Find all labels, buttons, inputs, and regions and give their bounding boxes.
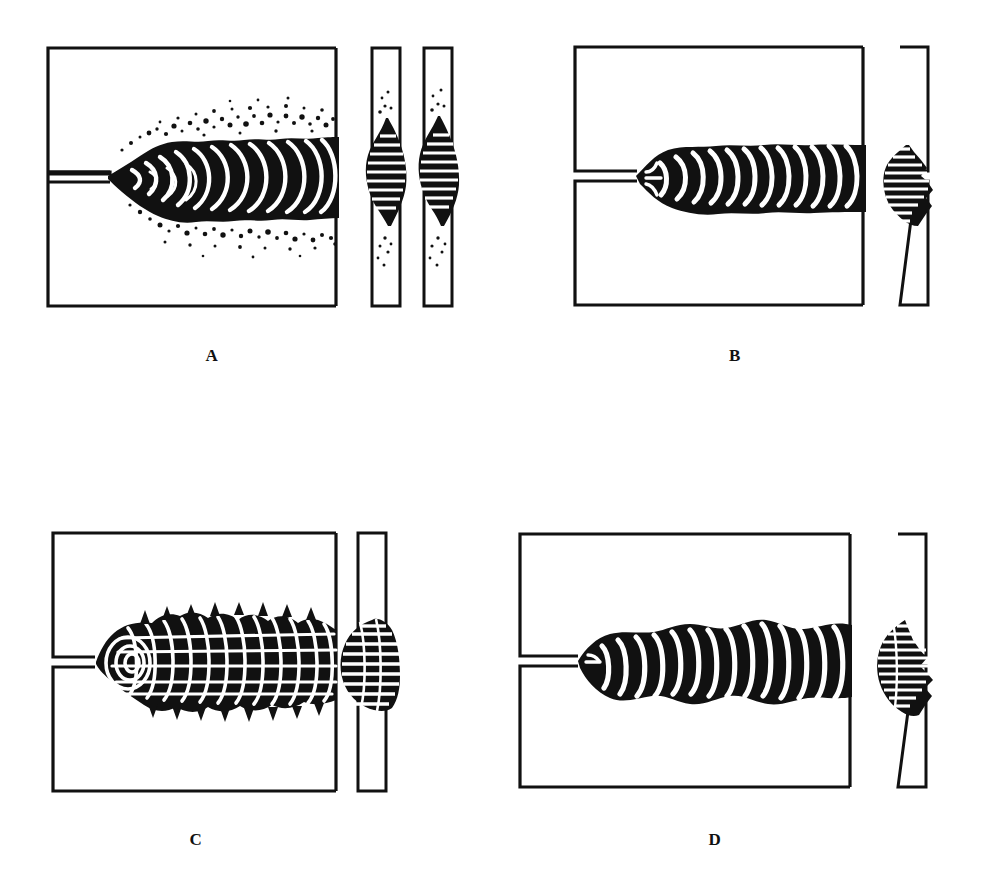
weld-crosshatch-c [128, 617, 332, 704]
figure-root: A [0, 0, 991, 884]
weld-root-fan-b [646, 163, 661, 195]
plate-outline-b [575, 47, 863, 305]
panel-label-c: C [176, 830, 216, 850]
section-strip-d [898, 534, 926, 787]
panel-label-d: D [695, 830, 735, 850]
section-nugget-b [883, 145, 933, 226]
section-strip-c [358, 533, 386, 791]
section-nugget-c [341, 619, 402, 711]
weld-ripples-b [660, 146, 857, 206]
weld-spikes-c [140, 602, 324, 722]
plate-outline-c [53, 533, 336, 791]
section-strip-b [900, 47, 928, 305]
plate-outline-d [520, 534, 850, 787]
panel-a: A [0, 0, 470, 330]
weld-ripples-d [602, 624, 843, 698]
weld-root-mark-d [586, 655, 600, 662]
panel-label-b: B [715, 346, 755, 366]
panel-label-a: A [192, 346, 232, 366]
weld-crosshatch-c-horizontal [112, 634, 336, 694]
weld-bead-d [578, 620, 852, 705]
weld-bead-c [96, 612, 336, 712]
weld-bead-b [636, 144, 866, 214]
weld-start-spiral-c [106, 637, 150, 689]
section-nugget-d [877, 620, 933, 716]
panel-a-drawing [0, 0, 470, 330]
